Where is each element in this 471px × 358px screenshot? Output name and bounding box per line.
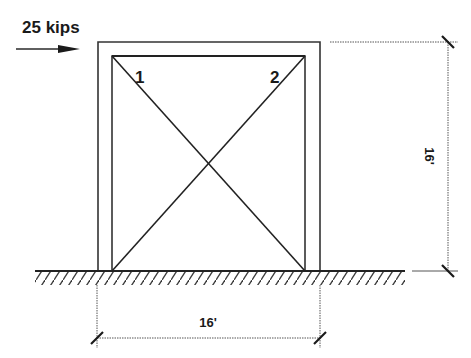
brace-2-label: 2 [270,68,279,87]
load-arrow-icon [16,45,80,53]
width-label: 16' [199,315,217,330]
brace-1-label: 1 [135,68,144,87]
braced-frame-diagram: 25 kips 1 2 16' 16' [0,0,471,358]
ground [35,271,405,285]
height-label: 16' [422,147,437,165]
load-label: 25 kips [22,18,80,37]
height-dimension [330,36,458,277]
